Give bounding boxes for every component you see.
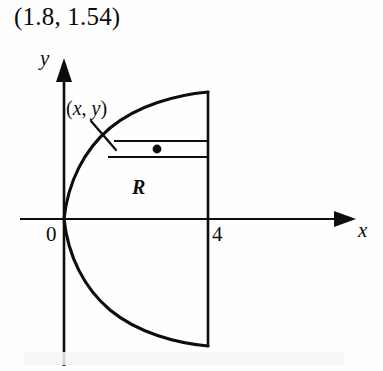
parabola-lower-branch <box>64 219 208 346</box>
paren-close: ) <box>100 97 107 119</box>
sample-point-dot <box>153 145 162 154</box>
x-axis <box>20 211 356 227</box>
point-coordinates-label: (x, y) <box>66 98 107 118</box>
scan-artifact-smudge <box>24 352 344 365</box>
parabola-region-diagram <box>0 0 383 371</box>
comma-separator: , <box>82 97 92 119</box>
region-label-R: R <box>132 177 145 197</box>
paren-open: ( <box>66 97 73 119</box>
y-axis-label: y <box>40 48 49 69</box>
y-axis-arrowhead <box>56 58 72 82</box>
figure-page: (1.8, 1.54) y x 0 4 R (x <box>0 0 383 371</box>
x-axis-label: x <box>358 220 367 241</box>
origin-tick-label: 0 <box>46 224 57 245</box>
x-axis-arrowhead <box>334 211 356 227</box>
x-tick-label-4: 4 <box>212 224 223 245</box>
variable-x: x <box>73 97 82 119</box>
